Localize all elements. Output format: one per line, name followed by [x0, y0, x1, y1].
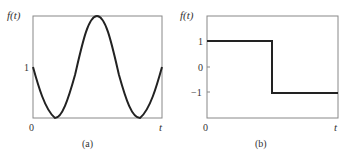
ytick-b-1: 1	[198, 36, 203, 47]
panel-b: f(t) 1 0 −1 0 t (b)	[180, 9, 338, 150]
curve-a	[33, 16, 162, 118]
ylabel-b: f(t)	[180, 9, 194, 22]
panel-a: f(t) 1 0 t (a)	[7, 9, 163, 150]
curve-b	[207, 41, 338, 93]
origin-b: 0	[203, 122, 208, 133]
origin-a: 0	[29, 122, 34, 133]
plot-frame-a	[33, 16, 162, 118]
figure: f(t) 1 0 t (a) f(t) 1 0 −1 0 t (b)	[0, 0, 345, 160]
xlabel-a: t	[159, 121, 163, 133]
ytick-b-0: 0	[198, 62, 203, 73]
caption-b: (b)	[255, 138, 267, 150]
ytick-b-neg1: −1	[191, 87, 202, 98]
xlabel-b: t	[334, 121, 338, 133]
ylabel-a: f(t)	[7, 9, 21, 22]
ytick-a-1: 1	[24, 62, 29, 73]
caption-a: (a)	[82, 138, 93, 150]
